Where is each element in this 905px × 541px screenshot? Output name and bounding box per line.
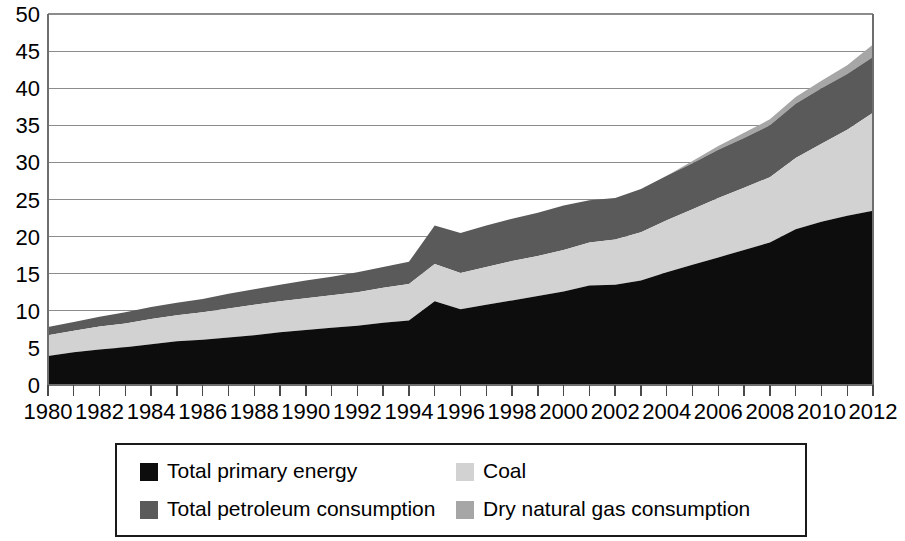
- x-axis-tick-label: 1996: [436, 399, 485, 424]
- x-axis-tick-label: 2006: [694, 399, 743, 424]
- x-axis-tick-label: 1992: [333, 399, 382, 424]
- y-axis-tick-label: 5: [28, 336, 40, 361]
- x-axis-tick-label: 2000: [539, 399, 588, 424]
- x-axis-tick-label: 2010: [797, 399, 846, 424]
- y-axis-tick-label: 10: [16, 299, 40, 324]
- y-axis-tick-label: 0: [28, 373, 40, 398]
- y-axis-tick-label: 45: [16, 39, 40, 64]
- legend-label: Total petroleum consumption: [167, 497, 435, 520]
- x-axis-tick-label: 2004: [642, 399, 691, 424]
- x-axis-tick-label: 1998: [488, 399, 537, 424]
- legend-label: Coal: [483, 459, 526, 482]
- y-axis-tick-label: 35: [16, 113, 40, 138]
- legend-label: Total primary energy: [167, 459, 358, 482]
- legend-label: Dry natural gas consumption: [483, 497, 750, 520]
- x-axis-tick-label: 1994: [384, 399, 433, 424]
- legend-swatch-icon: [456, 501, 474, 519]
- stacked-area-chart: 05101520253035404550 1980198219841986198…: [0, 0, 905, 541]
- y-axis-tick-labels: 05101520253035404550: [16, 2, 40, 398]
- x-axis-tick-label: 2002: [591, 399, 640, 424]
- y-axis-tick-label: 30: [16, 150, 40, 175]
- x-axis-tick-label: 1982: [75, 399, 124, 424]
- y-axis-tick-label: 20: [16, 225, 40, 250]
- x-axis-tick-labels: 1980198219841986198819901992199419961998…: [24, 399, 898, 424]
- x-axis-tick-label: 1988: [230, 399, 279, 424]
- y-axis-tick-label: 15: [16, 262, 40, 287]
- x-axis-tick-label: 1984: [127, 399, 176, 424]
- y-axis-tick-label: 50: [16, 2, 40, 27]
- legend-item: Total petroleum consumption: [140, 497, 435, 520]
- legend-swatch-icon: [140, 501, 158, 519]
- legend-swatch-icon: [456, 463, 474, 481]
- y-axis-tick-label: 40: [16, 76, 40, 101]
- x-axis-tick-label: 2008: [745, 399, 794, 424]
- legend-swatch-icon: [140, 463, 158, 481]
- y-axis-tick-label: 25: [16, 188, 40, 213]
- x-axis-tick-label: 2012: [849, 399, 898, 424]
- x-axis-tick-label: 1990: [281, 399, 330, 424]
- chart-container: 05101520253035404550 1980198219841986198…: [0, 0, 905, 541]
- legend-item: Total primary energy: [140, 459, 358, 482]
- x-axis-tick-label: 1980: [24, 399, 73, 424]
- x-axis-tick-label: 1986: [178, 399, 227, 424]
- area-series-layer: [48, 44, 873, 385]
- chart-legend: Total primary energyCoalTotal petroleum …: [116, 444, 806, 536]
- legend-item: Dry natural gas consumption: [456, 497, 750, 520]
